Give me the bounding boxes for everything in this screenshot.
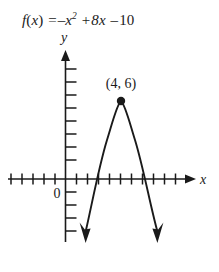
equation-term2: 8x (91, 12, 105, 28)
x-axis-label: x (199, 172, 207, 187)
equation-paren-close: ) (38, 12, 43, 28)
coordinate-plane: (4, 6) x y 0 (0, 32, 219, 272)
y-axis-ticks-positive (66, 69, 77, 160)
parabola-figure: f(x) =–x2 +8x –10 (0, 0, 219, 272)
y-axis-ticks-negative (66, 192, 77, 231)
equation-term2-sign: + (81, 12, 92, 28)
filled-dot-icon-vertex (117, 97, 125, 105)
equation-term3: 10 (119, 12, 134, 28)
arrow-up-icon (61, 50, 70, 61)
equation-term1-exponent: 2 (72, 11, 77, 21)
vertex-label: (4, 6) (106, 76, 137, 92)
arrow-down-icon-left-branch (80, 222, 91, 243)
arrow-down-icon-right-branch (152, 222, 163, 243)
origin-label: 0 (54, 186, 61, 201)
y-axis-label: y (59, 32, 68, 45)
arrow-right-icon (185, 175, 196, 184)
equation-term3-sign: – (110, 12, 120, 28)
equation-equals: = (47, 12, 58, 28)
parabola-curve (86, 101, 157, 230)
function-equation: f(x) =–x2 +8x –10 (22, 6, 134, 30)
